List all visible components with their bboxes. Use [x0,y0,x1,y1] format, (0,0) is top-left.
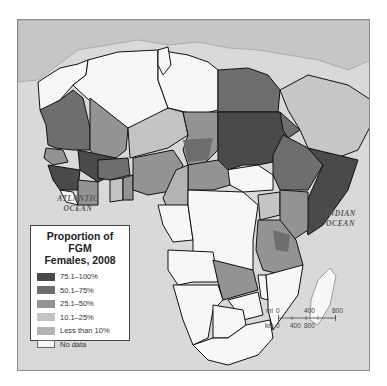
scale-km-tick: 400 [290,322,301,329]
legend-label: No data [60,340,86,349]
map-legend: Proportion of FGM Females, 2008 75.1–100… [30,225,130,341]
atlantic-ocean-label: ATLANTIC OCEAN [38,194,118,214]
legend-title-line2: Females, 2008 [37,254,123,266]
legend-item: 50.1–75% [37,284,123,298]
gabon-congo-region [158,205,193,242]
indian-line2: OCEAN [313,219,368,229]
angola-region [168,250,218,285]
scale-bar: mi 0 400 800 km 0 400 800 [266,302,366,342]
scale-km-label: km [265,322,274,329]
scale-mi-tick: 800 [332,307,343,314]
legend-item: No data [37,338,123,352]
legend-label: 10.1–25% [60,313,94,322]
legend-swatch [37,327,55,335]
egypt-region [218,68,280,112]
scale-mi-tick: 0 [276,307,280,314]
burkina-region [98,158,130,180]
guinea-region [48,165,80,190]
legend-item: Less than 10% [37,324,123,338]
togo-benin-region [123,175,133,200]
legend-title-line1: Proportion of FGM [37,230,123,254]
indian-ocean-label: INDIAN OCEAN [313,209,368,229]
uganda-region [258,192,280,220]
legend-item: 25.1–50% [37,297,123,311]
legend-label: 75.1–100% [60,272,98,281]
scale-mi-label: mi [266,307,273,314]
legend-label: 50.1–75% [60,286,94,295]
map-frame: ATLANTIC OCEAN INDIAN OCEAN Proportion o… [17,19,370,371]
atlantic-line1: ATLANTIC [38,194,118,204]
legend-label: 25.1–50% [60,299,94,308]
legend-title: Proportion of FGM Females, 2008 [37,230,123,266]
scale-km-tick: 800 [304,322,315,329]
legend-swatch [37,313,55,321]
scale-bar-line [278,315,338,321]
legend-item: 10.1–25% [37,311,123,325]
legend-label: Less than 10% [60,326,110,335]
senegal-region [44,148,68,165]
indian-line1: INDIAN [313,209,368,219]
south-sudan-region [226,165,273,192]
scale-mi-tick: 400 [304,307,315,314]
legend-item: 75.1–100% [37,270,123,284]
legend-swatch [37,273,55,281]
scale-km-tick: 0 [276,322,280,329]
legend-swatch [37,286,55,294]
legend-swatch [37,300,55,308]
legend-swatch [37,340,55,348]
atlantic-line2: OCEAN [38,204,118,214]
